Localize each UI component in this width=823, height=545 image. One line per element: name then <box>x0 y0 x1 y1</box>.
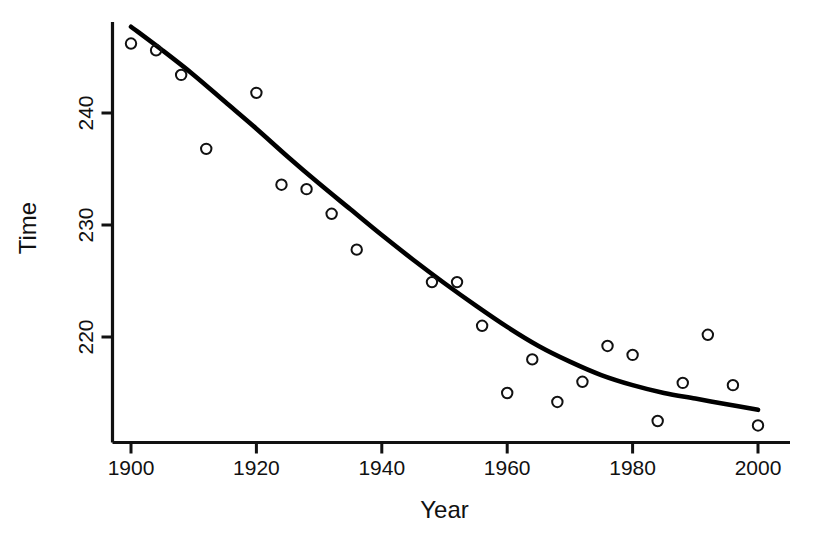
data-point-marker <box>627 350 637 360</box>
data-point-marker <box>126 38 136 48</box>
chart-figure: 220230240 190019201940196019802000 Time … <box>0 0 823 545</box>
data-point-marker <box>276 179 286 189</box>
data-point-marker <box>477 321 487 331</box>
data-point-marker <box>502 388 512 398</box>
x-tick-label: 1980 <box>609 456 656 479</box>
data-point-marker <box>452 277 462 287</box>
x-tick-label: 1920 <box>233 456 280 479</box>
data-point-marker <box>301 184 311 194</box>
data-point-marker <box>728 380 738 390</box>
y-tick-label: 240 <box>74 95 97 130</box>
y-axis-tick-labels: 220230240 <box>74 95 97 354</box>
y-axis-title: Time <box>14 202 41 254</box>
data-point-marker <box>176 70 186 80</box>
x-tick-label: 2000 <box>735 456 782 479</box>
x-axis-ticks <box>131 443 758 454</box>
x-tick-label: 1940 <box>358 456 405 479</box>
data-point-marker <box>753 420 763 430</box>
data-point-marker <box>652 416 662 426</box>
data-point-marker <box>527 354 537 364</box>
data-point-marker <box>427 277 437 287</box>
data-point-marker <box>352 244 362 254</box>
data-point-marker <box>577 377 587 387</box>
y-tick-label: 230 <box>74 207 97 242</box>
data-point-marker <box>326 209 336 219</box>
x-tick-label: 1960 <box>484 456 531 479</box>
data-point-marker <box>678 378 688 388</box>
data-point-marker <box>602 341 612 351</box>
data-point-marker <box>201 144 211 154</box>
fitted-trend-curve <box>131 27 758 410</box>
data-point-marker <box>552 397 562 407</box>
y-tick-label: 220 <box>74 319 97 354</box>
x-axis-tick-labels: 190019201940196019802000 <box>108 456 782 479</box>
x-axis-title: Year <box>420 496 469 523</box>
x-tick-label: 1900 <box>108 456 155 479</box>
y-axis-ticks <box>102 113 113 337</box>
data-point-marker <box>703 330 713 340</box>
data-point-marker <box>251 88 261 98</box>
scatter-plot-svg: 220230240 190019201940196019802000 Time … <box>0 0 823 545</box>
